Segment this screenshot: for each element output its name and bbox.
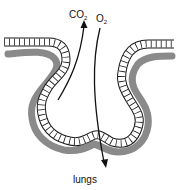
alveolus-diagram <box>0 0 177 190</box>
co2-label: CO2 <box>69 10 87 21</box>
o2-label: O2 <box>96 14 107 25</box>
lungs-caption: lungs <box>73 175 97 185</box>
